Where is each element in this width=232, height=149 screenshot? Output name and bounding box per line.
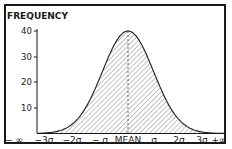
y-tick-10: 10: [21, 103, 32, 113]
y-axis-title: FREQUENCY: [7, 11, 68, 21]
x-tick-neg-2sigma: −2σ: [63, 135, 82, 145]
x-tick-sigma: σ: [151, 135, 157, 145]
x-tick-2sigma: 2σ: [173, 135, 184, 145]
x-tick-neg-infinity: − ∞: [5, 135, 23, 145]
x-tick-pos-infinity: +∞: [211, 135, 226, 145]
hatched-area: [37, 31, 224, 134]
x-tick-neg-3sigma: −3σ: [35, 135, 54, 145]
normal-distribution-chart: [0, 0, 232, 149]
y-tick-30: 30: [21, 52, 32, 62]
x-tick-3sigma: 3σ: [196, 135, 207, 145]
x-tick-neg-sigma: − σ: [92, 135, 108, 145]
y-tick-40: 40: [21, 26, 32, 36]
y-tick-20: 20: [21, 77, 32, 87]
x-tick-mean: MEAN: [115, 135, 141, 145]
